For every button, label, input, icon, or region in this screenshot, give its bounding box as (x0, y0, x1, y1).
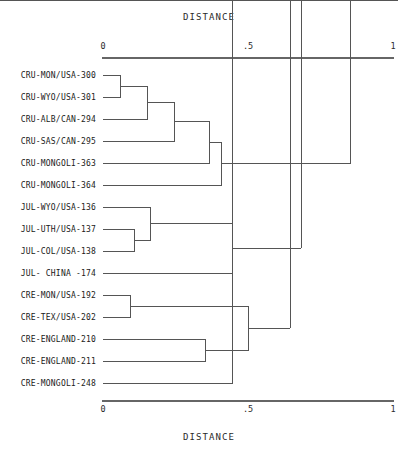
dendrogram-plot (0, 0, 418, 458)
axis-tick-label: 1 (390, 404, 395, 414)
dendrogram-figure: DISTANCE 0.51 CRU-MON/USA-300CRU-WYO/USA… (0, 0, 418, 458)
bottom-axis-title: DISTANCE (0, 432, 418, 442)
axis-tick-label: .5 (243, 404, 253, 414)
axis-tick-label: 0 (100, 404, 105, 414)
